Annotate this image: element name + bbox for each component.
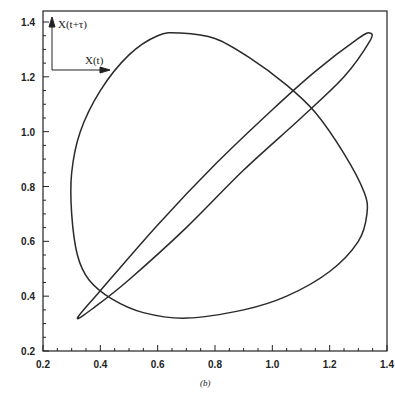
- x-tick-label: 1.0: [265, 359, 279, 370]
- y-tick-label: 0.4: [21, 291, 35, 302]
- y-tick-label: 0.6: [21, 236, 35, 247]
- inset-ylabel: X(t+τ): [58, 18, 87, 31]
- y-tick-label: 0.2: [21, 346, 35, 357]
- y-tick-label: 1.0: [21, 127, 35, 138]
- axis-ticks: [43, 22, 387, 351]
- y-tick-label: 1.2: [21, 72, 35, 83]
- x-tick-label: 1.4: [380, 359, 394, 370]
- y-tick-label: 1.4: [21, 17, 35, 28]
- figure-caption: (b): [200, 378, 211, 388]
- x-tick-label: 1.2: [323, 359, 337, 370]
- inset-xlabel: X(t): [85, 54, 104, 67]
- x-tick-label: 0.6: [151, 359, 165, 370]
- y-tick-label: 0.8: [21, 182, 35, 193]
- data-curve: [77, 33, 372, 319]
- data-curve: [71, 33, 368, 318]
- data-curves: [71, 33, 372, 319]
- phase-portrait-chart: 0.20.40.60.81.01.21.40.20.40.60.81.01.21…: [0, 0, 395, 397]
- x-tick-label: 0.2: [36, 359, 50, 370]
- x-tick-label: 0.4: [93, 359, 107, 370]
- x-tick-label: 0.8: [208, 359, 222, 370]
